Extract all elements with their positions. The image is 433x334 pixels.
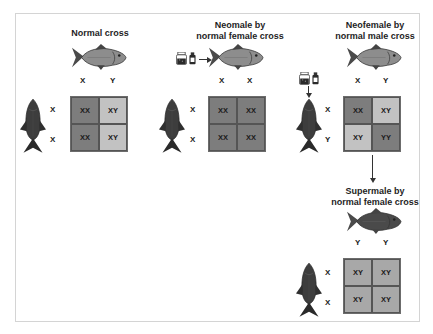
gray-fish-icon: [70, 44, 128, 71]
panel-title: Neofemale by normal male cross: [325, 20, 425, 42]
punnett-grid: XX XX XX XX: [208, 96, 266, 152]
dark-vertical-fish-icon: [159, 98, 185, 154]
title-line: normal male cross: [325, 31, 425, 42]
gray-fish-icon: [207, 44, 265, 71]
grid-cell: XX: [237, 124, 265, 151]
hormone-jar-icon: [299, 72, 310, 85]
grid-cell: XX: [209, 124, 237, 151]
male-allele-1: X: [80, 76, 85, 85]
hormone-bottle-icon: [312, 72, 319, 85]
grid-cell: XY: [344, 286, 372, 313]
male-allele-1: X: [355, 76, 360, 85]
grid-cell: XX: [237, 97, 265, 124]
dark-vertical-fish-icon: [20, 98, 46, 154]
female-allele-2: X: [325, 298, 330, 307]
grid-cell: XY: [344, 259, 372, 286]
panel-title: Supermale by normal female cross: [325, 186, 425, 208]
grid-cell: XY: [372, 286, 400, 313]
male-allele-2: X: [247, 76, 252, 85]
female-allele-1: X: [50, 105, 55, 114]
female-allele-1: X: [190, 105, 195, 114]
female-allele-1: X: [325, 268, 330, 277]
grid-cell: XX: [209, 97, 237, 124]
title-line: normal female cross: [325, 197, 425, 208]
grid-cell: XY: [344, 124, 372, 151]
hormone-jar-icon: [176, 52, 187, 65]
arrow-down-icon: [308, 86, 309, 94]
grid-cell: XX: [71, 124, 99, 151]
grid-cell: XY: [372, 97, 400, 124]
grid-cell: XY: [99, 97, 127, 124]
dark-vertical-fish-icon: [296, 262, 322, 318]
gray-fish-icon: [345, 44, 403, 71]
dark-fish-icon: [345, 208, 403, 235]
male-allele-1: Y: [355, 238, 360, 247]
punnett-grid: XX XY XX XY: [70, 96, 128, 152]
female-allele-1: X: [325, 105, 330, 114]
punnett-grid: XX XY XY YY: [343, 96, 401, 152]
female-allele-2: X: [50, 135, 55, 144]
title-line: Neofemale by: [325, 20, 425, 31]
arrow-down-icon: [372, 155, 373, 179]
title-line: normal female cross: [185, 31, 295, 42]
male-allele-2: Y: [110, 76, 115, 85]
panel-title: Normal cross: [55, 28, 145, 39]
title-line: Supermale by: [325, 186, 425, 197]
female-allele-2: X: [190, 135, 195, 144]
female-allele-2: Y: [325, 135, 330, 144]
dark-vertical-fish-icon: [296, 98, 322, 154]
male-allele-2: Y: [383, 238, 388, 247]
title-line: Neomale by: [185, 20, 295, 31]
male-allele-1: X: [219, 76, 224, 85]
panel-title: Neomale by normal female cross: [185, 20, 295, 42]
hormone-bottle-icon: [189, 52, 196, 65]
grid-cell: XX: [71, 97, 99, 124]
grid-cell: YY: [372, 124, 400, 151]
male-allele-2: Y: [383, 76, 388, 85]
punnett-grid: XY XY XY XY: [343, 258, 401, 314]
grid-cell: XY: [99, 124, 127, 151]
grid-cell: XX: [344, 97, 372, 124]
grid-cell: XY: [372, 259, 400, 286]
